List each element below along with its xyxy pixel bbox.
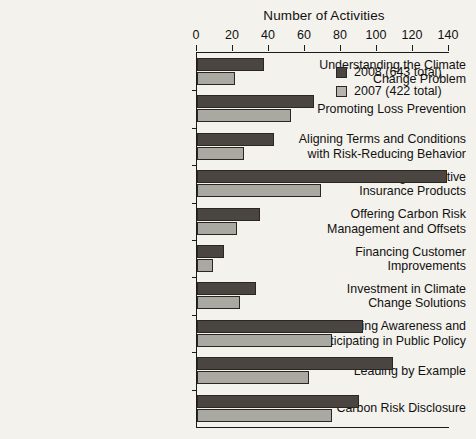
bar-2008 xyxy=(197,133,274,146)
legend-label: 2008 (643 total) xyxy=(354,65,442,79)
bar-2007 xyxy=(197,109,291,122)
bar-group xyxy=(197,165,449,202)
x-tick-label: 100 xyxy=(366,28,387,42)
legend-swatch-icon xyxy=(336,67,347,78)
bar-2007 xyxy=(197,184,321,197)
legend-label: 2007 (422 total) xyxy=(354,84,442,98)
x-tick-mark xyxy=(340,45,341,51)
x-tick-mark xyxy=(196,45,197,51)
bar-2007 xyxy=(197,147,244,160)
x-tick-label: 0 xyxy=(193,28,200,42)
bar-2007 xyxy=(197,72,235,85)
bar-group xyxy=(197,128,449,165)
bar-2008 xyxy=(197,170,447,183)
bar-2007 xyxy=(197,334,332,347)
legend-item: 2008 (643 total) xyxy=(336,64,442,80)
x-tick-mark xyxy=(268,45,269,51)
bar-group xyxy=(197,203,449,240)
bar-group xyxy=(197,352,449,389)
x-tick-mark xyxy=(448,45,449,51)
legend-item: 2007 (422 total) xyxy=(336,83,442,99)
x-tick-mark xyxy=(304,45,305,51)
bar-group xyxy=(197,315,449,352)
bar-2008 xyxy=(197,395,359,408)
x-tick-mark xyxy=(376,45,377,51)
chart-title: Number of Activities xyxy=(196,8,452,23)
bar-group xyxy=(197,277,449,314)
x-tick-label: 140 xyxy=(438,28,459,42)
bar-group xyxy=(197,390,449,427)
x-tick-label: 80 xyxy=(333,28,347,42)
x-tick-label: 20 xyxy=(225,28,239,42)
bar-2007 xyxy=(197,259,213,272)
bar-chart: Number of Activities 020406080100120140 … xyxy=(0,0,476,439)
bar-2008 xyxy=(197,245,224,258)
bar-group xyxy=(197,240,449,277)
bar-2008 xyxy=(197,95,314,108)
bar-2008 xyxy=(197,58,264,71)
bar-2007 xyxy=(197,222,237,235)
x-axis: 020406080100120140 xyxy=(196,28,448,48)
plot-area xyxy=(197,53,449,427)
x-tick-label: 120 xyxy=(402,28,423,42)
bar-2008 xyxy=(197,320,363,333)
bar-2007 xyxy=(197,409,332,422)
x-tick-mark xyxy=(232,45,233,51)
bar-2008 xyxy=(197,282,256,295)
bar-2008 xyxy=(197,208,260,221)
chart-legend: 2008 (643 total)2007 (422 total) xyxy=(336,64,442,102)
x-tick-mark xyxy=(412,45,413,51)
bar-2007 xyxy=(197,371,309,384)
bar-2008 xyxy=(197,357,393,370)
x-tick-label: 60 xyxy=(297,28,311,42)
x-tick-label: 40 xyxy=(261,28,275,42)
legend-swatch-icon xyxy=(336,86,347,97)
plot-bottom-border xyxy=(196,427,449,428)
bar-2007 xyxy=(197,296,240,309)
